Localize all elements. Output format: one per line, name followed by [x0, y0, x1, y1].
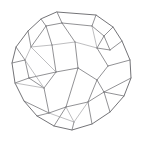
mid-band-edge-8: [97, 66, 108, 80]
top-rim-edge-4: [104, 36, 110, 50]
top-face-edge-e: [110, 41, 122, 50]
mid-band-diag-1: [31, 47, 56, 72]
mid-band-edge-5: [75, 42, 78, 68]
upper-band-edge-8: [75, 42, 97, 48]
top-rim-edge-5: [31, 26, 46, 47]
lower-band-edge-4: [97, 80, 104, 92]
bottom-face-edge-1: [37, 113, 49, 116]
upper-band-edge-4: [97, 36, 104, 48]
figure-canvas: [0, 0, 145, 142]
mid-band-group: [12, 42, 130, 88]
top-face-edge-a: [41, 19, 46, 26]
mid-band-edge-6: [97, 48, 108, 66]
silhouette-outline: [12, 12, 131, 130]
mid-band-edge-9: [78, 68, 97, 80]
lower-band-edge-2: [66, 68, 78, 107]
mid-band-edge-2: [12, 60, 25, 63]
mid-band-edge-3: [15, 78, 29, 83]
top-face-edge-d: [104, 27, 113, 36]
silhouette-outline-group: [12, 12, 131, 130]
top-rim-edge-2: [62, 23, 92, 26]
mid-band-edge-4: [52, 45, 56, 72]
top-face-group: [16, 12, 122, 60]
bottom-face-edge-5: [104, 92, 110, 112]
top-face-edge-g: [16, 47, 25, 60]
top-face-edge-c: [92, 15, 96, 26]
top-rim-edge-1: [46, 23, 62, 26]
bottom-face-edge-2: [54, 107, 66, 126]
lower-band-edge-1: [44, 88, 49, 113]
upper-band-edge-7: [52, 42, 75, 45]
mid-band-edge-10: [56, 68, 78, 72]
top-face-edge-f: [28, 31, 31, 47]
upper-band-group: [31, 23, 110, 50]
upper-band-edge-6: [31, 45, 52, 47]
upper-band-edge-1: [46, 26, 52, 45]
lower-band-edge-11: [104, 92, 124, 96]
wireframe-polyhedron-svg: [0, 0, 145, 142]
bottom-face-group: [37, 92, 110, 130]
bottom-face-edge-4: [88, 102, 92, 124]
lower-band-edge-8: [49, 107, 66, 113]
lower-band-edge-3: [88, 80, 97, 102]
lower-band-edge-5: [104, 78, 131, 92]
mid-band-edge-7: [108, 60, 130, 66]
upper-band-edge-5: [97, 48, 110, 50]
top-face-edge-b: [57, 12, 62, 23]
lower-band-group: [15, 68, 131, 113]
upper-band-edge-2: [62, 23, 75, 42]
bottom-face-edge-3: [72, 122, 74, 130]
lower-band-edge-9: [24, 101, 49, 113]
top-rim-edge-6: [25, 47, 31, 60]
